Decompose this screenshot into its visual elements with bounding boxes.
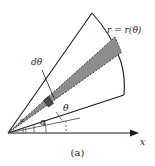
alpha-small-arc [25, 127, 26, 133]
x-axis-label: x [140, 138, 145, 147]
polar-wedge-figure: r = r(θ) dθ θ α α x (a) [0, 0, 155, 166]
dtheta-label: dθ [31, 58, 42, 67]
theta-arc [56, 112, 62, 121]
curve-label-r-of-theta: r = r(θ) [107, 26, 141, 35]
dtheta-leader-line [42, 70, 54, 98]
theta-label: θ [63, 104, 68, 113]
alpha-small-label: α [20, 117, 24, 123]
figure-caption: (a) [0, 147, 155, 158]
x-axis-arrowhead [130, 130, 139, 137]
alpha-label: α [40, 118, 46, 127]
